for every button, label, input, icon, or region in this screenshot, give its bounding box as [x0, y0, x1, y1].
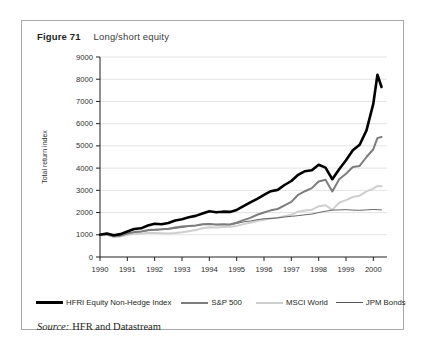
svg-text:1995: 1995	[228, 265, 245, 274]
gridlines	[100, 57, 387, 235]
figure-title: Long/short equity	[94, 31, 169, 42]
source-value: HFR and Datastream	[72, 321, 161, 332]
svg-text:5000: 5000	[76, 141, 93, 150]
source-note: Source:HFR and Datastream	[37, 321, 161, 332]
legend-swatch-icon	[256, 302, 283, 304]
legend-item-label: JPM Bonds	[366, 298, 406, 307]
svg-text:1991: 1991	[119, 265, 136, 274]
svg-text:7000: 7000	[76, 97, 93, 106]
source-label: Source:	[37, 321, 69, 332]
figure-number: Figure 71	[37, 31, 81, 42]
svg-text:1990: 1990	[92, 265, 109, 274]
legend-item[interactable]: HFRI Equity Non-Hedge Index	[36, 298, 171, 307]
svg-text:1997: 1997	[283, 265, 300, 274]
svg-text:0: 0	[89, 253, 93, 262]
svg-text:1993: 1993	[174, 265, 191, 274]
legend-item[interactable]: MSCI World	[256, 298, 328, 307]
legend-item-label: S&P 500	[211, 298, 242, 307]
svg-text:1992: 1992	[146, 265, 163, 274]
svg-text:9000: 9000	[76, 53, 93, 62]
chart-plot-area: 0100020003000400050006000700080009000 19…	[35, 49, 392, 287]
figure-container: Figure 71Long/short equity 0100020003000…	[21, 20, 404, 330]
x-axis-ticks: 1990199119921993199419951996199719981999…	[92, 257, 382, 274]
legend-item[interactable]: S&P 500	[181, 298, 242, 307]
legend-swatch-icon	[336, 302, 363, 303]
y-axis-ticks: 0100020003000400050006000700080009000	[76, 53, 100, 262]
y-axis-label: Total return index	[41, 130, 48, 184]
svg-text:1996: 1996	[256, 265, 273, 274]
svg-text:3000: 3000	[76, 186, 93, 195]
svg-text:1994: 1994	[201, 265, 218, 274]
svg-text:1000: 1000	[76, 230, 93, 239]
svg-text:1998: 1998	[310, 265, 327, 274]
svg-text:4000: 4000	[76, 164, 93, 173]
svg-text:2000: 2000	[365, 265, 382, 274]
legend-item-label: MSCI World	[286, 298, 328, 307]
figure-caption: Figure 71Long/short equity	[37, 31, 169, 42]
legend-swatch-icon	[36, 301, 63, 304]
legend-item-label: HFRI Equity Non-Hedge Index	[66, 298, 171, 307]
legend-item[interactable]: JPM Bonds	[336, 298, 406, 307]
svg-text:1999: 1999	[338, 265, 355, 274]
legend-swatch-icon	[181, 302, 208, 304]
line-chart-svg: 0100020003000400050006000700080009000 19…	[35, 49, 392, 287]
svg-text:8000: 8000	[76, 75, 93, 84]
svg-text:2000: 2000	[76, 208, 93, 217]
svg-text:6000: 6000	[76, 119, 93, 128]
chart-legend: HFRI Equity Non-Hedge IndexS&P 500MSCI W…	[36, 298, 394, 307]
